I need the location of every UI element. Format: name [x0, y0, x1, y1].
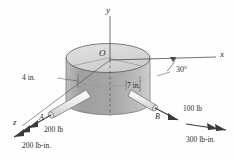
point-a-label: A [39, 114, 44, 122]
y-axis-label: y [106, 6, 110, 15]
couple-a-label: 200 lb-in. [22, 142, 51, 150]
origin-label: O [99, 49, 106, 58]
point-b-label: B [155, 113, 160, 121]
dimension-7in-label: 7 in. [127, 82, 140, 90]
force-a-label: 200 lb [44, 126, 63, 134]
angle-30-label: 30° [176, 66, 187, 74]
dimension-4in-label: 4 in. [22, 74, 35, 82]
couple-a-arrowhead-1 [14, 129, 24, 137]
couple-b-arrowhead-1 [215, 124, 226, 131]
force-b-label: 100 lb [183, 105, 202, 113]
couple-a-arrowhead-2 [20, 125, 30, 133]
x-axis-label: x [220, 50, 224, 59]
couple-b-label: 300 lb-in. [186, 136, 215, 144]
angle-30-indicator [157, 57, 176, 76]
z-axis-label: z [13, 118, 17, 127]
angle-leader [157, 72, 170, 76]
